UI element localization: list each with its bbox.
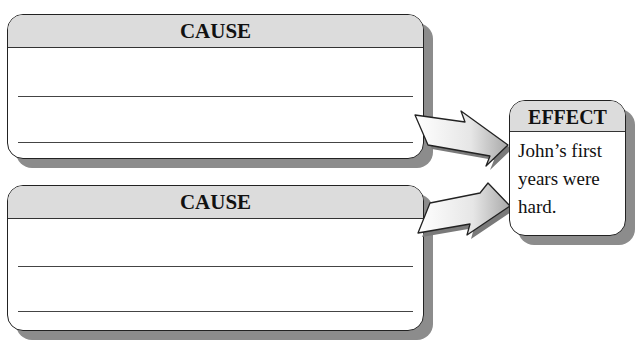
effect-text: John’s first years were hard. [518, 137, 621, 221]
arrow-right-icon [418, 183, 514, 239]
arrow-right-icon [415, 111, 512, 170]
effect-box: EFFECT John’s first years were hard. [509, 100, 626, 236]
effect-header: EFFECT [510, 101, 625, 132]
